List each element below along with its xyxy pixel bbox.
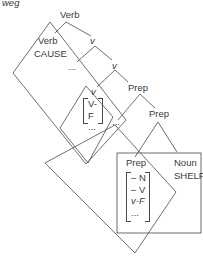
feature-v-f: v-F — [127, 195, 149, 207]
node-verb-head: Verb — [38, 35, 58, 46]
node-ellipsis1: ... — [68, 61, 76, 72]
branch-prep2-noun — [158, 122, 177, 152]
diamond-c — [45, 125, 176, 253]
feature-minus-n: – N — [127, 172, 149, 184]
node-v1: v — [90, 35, 95, 46]
feature-ellipsis: ... — [127, 207, 149, 219]
diamond-a — [13, 22, 126, 164]
branch-v2-prep1 — [115, 70, 128, 82]
feature-minus-v: – V — [127, 184, 149, 196]
node-prep2: Prep — [149, 108, 169, 119]
branch-root-v — [66, 22, 91, 36]
branch-prep1-prep2 — [140, 94, 155, 108]
node-ellipsis2: ... — [112, 116, 120, 127]
node-v2: v — [112, 60, 117, 71]
prep-feature-matrix: – N – V v-F ... — [126, 172, 150, 222]
node-prep-head: Prep — [126, 157, 146, 168]
v3-feature-matrix: V-F ... — [83, 98, 103, 124]
feature-ellipsis: ... — [84, 121, 102, 133]
example-label: weg — [2, 0, 19, 8]
node-verb-cause: CAUSE — [34, 48, 67, 59]
feature-v-f: V-F — [84, 98, 102, 121]
node-noun-shelf: SHELF — [174, 170, 203, 181]
node-prep1: Prep — [128, 82, 148, 93]
branch-prep2-prep — [135, 122, 158, 157]
node-noun: Noun — [174, 157, 197, 168]
branch-v1-v2 — [95, 46, 112, 60]
branch-v1-ellipsis — [77, 46, 95, 62]
branch-v2-v3 — [97, 70, 115, 87]
branch-prep1-ellipsis — [118, 94, 140, 120]
branch-root-verb — [55, 22, 66, 33]
node-root-verb: Verb — [60, 9, 80, 20]
node-v3: v — [91, 86, 96, 97]
